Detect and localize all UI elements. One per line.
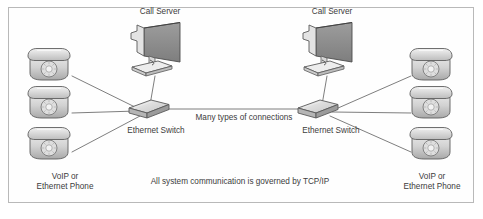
left-phone-bottom-label-line1: VoIP or [15, 172, 115, 182]
diagram-caption: All system communication is governed by … [120, 177, 360, 187]
right-phone-bottom-label-line2: Ethernet Phone [382, 182, 482, 192]
right-ethernet-switch-label: Ethernet Switch [288, 126, 374, 136]
wan-link-label: Many types of connections [188, 113, 300, 123]
right-phone-bottom-label-line1: VoIP or [382, 172, 482, 182]
right-call-server-label: Call Server [296, 7, 368, 17]
left-call-server-label: Call Server [124, 7, 196, 17]
right-phone-bottom-label: VoIP or Ethernet Phone [382, 172, 482, 193]
diagram-canvas: Call Server Call Server Ethernet Switch … [0, 0, 483, 219]
left-phone-bottom-label: VoIP or Ethernet Phone [15, 172, 115, 193]
left-ethernet-switch-label: Ethernet Switch [113, 126, 199, 136]
left-phone-bottom-label-line2: Ethernet Phone [15, 182, 115, 192]
